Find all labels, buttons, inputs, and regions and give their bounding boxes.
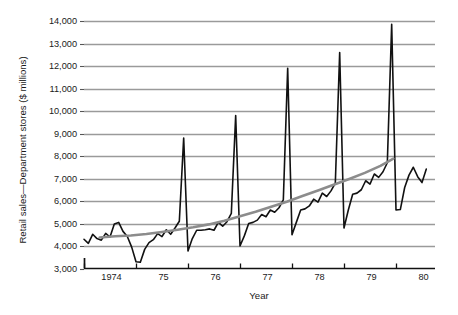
y-axis-tick-label: 9,000	[54, 129, 77, 139]
y-axis-tick-label: 3,000	[54, 264, 77, 274]
y-axis-tick-label: 13,000	[49, 39, 77, 49]
x-axis-tick-label: 75	[158, 272, 168, 282]
x-axis-tick-label: 1974	[101, 272, 121, 282]
retail-sales-line-chart: 14,00013,00012,00011,00010,0009,0008,000…	[0, 0, 458, 315]
y-axis-tick-label: 10,000	[49, 106, 77, 116]
x-axis-tick-label: 78	[314, 272, 324, 282]
y-axis-tick-label: 11,000	[50, 84, 77, 94]
x-axis-tick-label: 79	[366, 272, 376, 282]
x-axis-tick-label: 80	[418, 272, 428, 282]
y-axis-tick-label: 4,000	[54, 241, 77, 251]
x-axis-title: Year	[249, 290, 269, 301]
y-axis-title: Retail sales—Department stores ($ millio…	[17, 56, 28, 243]
y-axis-tick-label: 5,000	[54, 219, 77, 229]
y-axis-tick-label: 7,000	[54, 174, 77, 184]
x-axis-tick-label: 77	[262, 272, 272, 282]
chart-container: 14,00013,00012,00011,00010,0009,0008,000…	[0, 0, 458, 315]
y-axis-tick-label: 14,000	[49, 16, 77, 26]
y-axis-tick-label: 6,000	[54, 196, 77, 206]
x-axis-tick-label: 76	[210, 272, 220, 282]
y-axis-tick-label: 12,000	[49, 61, 77, 71]
y-axis-tick-label: 8,000	[54, 151, 77, 161]
